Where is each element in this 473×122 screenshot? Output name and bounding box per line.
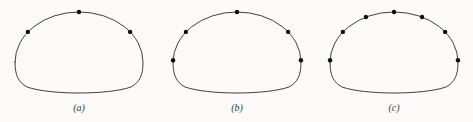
panel-a: (a) — [0, 0, 158, 122]
closed-curve-drawing-c: (c) — [315, 0, 473, 122]
marked-point — [392, 10, 396, 14]
closed-curve-drawing-b: (b) — [158, 0, 316, 122]
marked-point — [443, 30, 447, 34]
figure: (a) (b) (c) — [0, 0, 473, 122]
closed-curve — [173, 12, 301, 93]
panel-label-a: (a) — [73, 102, 85, 114]
marked-point — [77, 10, 81, 14]
closed-curve — [330, 12, 458, 93]
closed-curve — [15, 12, 143, 93]
marked-point — [234, 10, 238, 14]
marked-point — [128, 30, 132, 34]
marked-point — [341, 30, 345, 34]
panel-label-b: (b) — [231, 102, 243, 114]
marked-point — [26, 30, 30, 34]
panel-b: (b) — [158, 0, 316, 122]
panel-c: (c) — [315, 0, 473, 122]
marked-point — [171, 58, 175, 62]
marked-point — [456, 58, 460, 62]
marked-point — [328, 58, 332, 62]
marked-point — [286, 30, 290, 34]
panel-label-c: (c) — [389, 102, 401, 114]
marked-point — [183, 30, 187, 34]
marked-point — [420, 15, 424, 19]
closed-curve-drawing-a: (a) — [0, 0, 158, 122]
marked-point — [364, 15, 368, 19]
marked-point — [298, 58, 302, 62]
